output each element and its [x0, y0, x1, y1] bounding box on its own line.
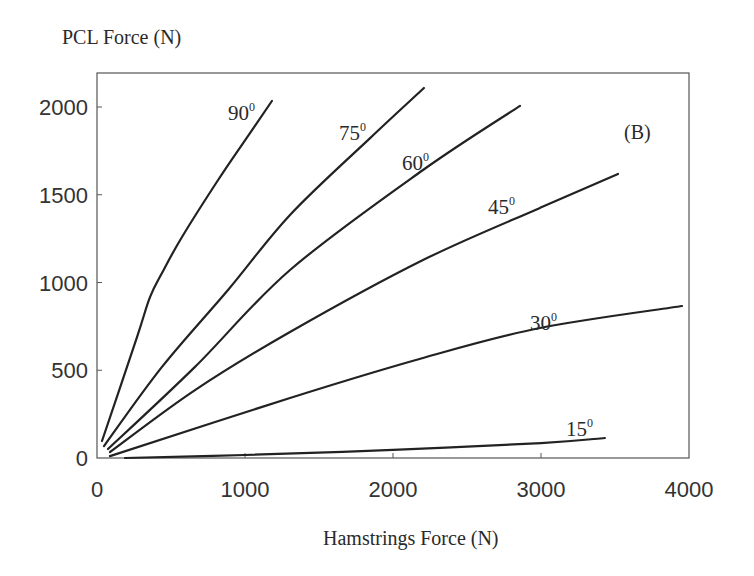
y-tick-label: 2000: [39, 95, 88, 120]
y-tick-label: 1500: [39, 183, 88, 208]
y-tick-label: 500: [51, 358, 88, 383]
x-axis-ticks: 01000200030004000: [91, 453, 714, 502]
curve-labels: 900750600450300150: [228, 100, 593, 441]
data-curves: [102, 88, 682, 458]
curve-label-75: 750: [339, 120, 366, 145]
panel-label: (B): [624, 121, 651, 144]
curve-label-45: 450: [488, 194, 515, 219]
curve-60-deg: [108, 106, 520, 449]
x-tick-label: 3000: [517, 477, 566, 502]
curve-label-90: 900: [228, 100, 255, 125]
plot-frame: [97, 73, 689, 458]
y-tick-label: 1000: [39, 271, 88, 296]
x-tick-label: 2000: [369, 477, 418, 502]
curve-75-deg: [104, 88, 424, 446]
curve-90-deg: [102, 101, 272, 441]
curve-label-60: 600: [402, 150, 429, 175]
y-axis-ticks: 0500100015002000: [39, 95, 102, 471]
curve-label-15: 150: [566, 416, 593, 441]
chart-canvas: PCL Force (N) Hamstrings Force (N) 01000…: [0, 0, 754, 576]
y-axis-title: PCL Force (N): [62, 26, 181, 49]
curve-15-deg: [125, 438, 605, 458]
x-tick-label: 0: [91, 477, 103, 502]
curve-label-30: 300: [530, 310, 557, 335]
x-axis-title: Hamstrings Force (N): [323, 527, 499, 550]
x-tick-label: 1000: [221, 477, 270, 502]
x-tick-label: 4000: [665, 477, 714, 502]
y-tick-label: 0: [76, 446, 88, 471]
